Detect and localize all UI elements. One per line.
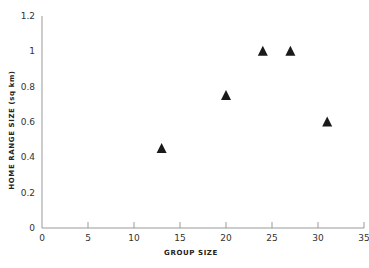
y-tick-label: 1.2 (21, 11, 35, 21)
y-tick-label: 0.6 (21, 117, 36, 127)
y-axis: 00.20.40.60.811.2 (21, 11, 42, 233)
y-tick-label: 0.2 (21, 188, 35, 198)
triangle-marker (221, 90, 231, 100)
x-tick-label: 15 (174, 233, 185, 243)
x-axis: 05101520253035 (39, 222, 369, 243)
triangle-marker (157, 143, 167, 153)
y-tick-label: 0.8 (21, 82, 36, 92)
triangle-marker (258, 46, 268, 56)
y-tick-label: 0 (29, 223, 35, 233)
y-axis-title: HOME RANGE SIZE (sq km) (8, 70, 16, 189)
triangle-marker (285, 46, 295, 56)
x-tick-label: 35 (358, 233, 369, 243)
x-tick-label: 5 (85, 233, 91, 243)
x-tick-label: 20 (220, 233, 232, 243)
x-tick-label: 10 (128, 233, 140, 243)
y-tick-label: 1 (29, 46, 35, 56)
y-tick-label: 0.4 (21, 152, 36, 162)
scatter-chart: 00.20.40.60.811.2 05101520253035 GROUP S… (0, 0, 369, 268)
x-tick-label: 0 (39, 233, 45, 243)
x-tick-label: 25 (266, 233, 277, 243)
data-points (157, 46, 333, 153)
x-axis-title: GROUP SIZE (164, 249, 218, 257)
triangle-marker (322, 117, 332, 127)
x-tick-label: 30 (312, 233, 324, 243)
